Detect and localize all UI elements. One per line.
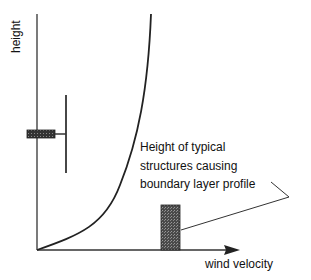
x-axis-label: wind velocity (205, 257, 273, 271)
annotation-line-2: structures causing (140, 157, 255, 176)
annotation-line-3: boundary layer profile (140, 175, 255, 194)
x-axis-arrowhead (224, 245, 240, 255)
y-axis-label: height (9, 20, 23, 53)
annotation-text: Height of typical structures causing bou… (140, 138, 255, 194)
structure-height-bar (161, 205, 180, 250)
annotation-line-1: Height of typical (140, 138, 255, 157)
reference-height-marker (27, 130, 55, 138)
